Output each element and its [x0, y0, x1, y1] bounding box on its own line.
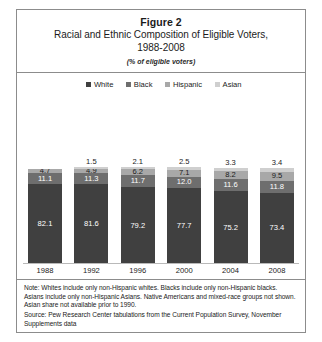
x-axis-label-2000: 2000	[167, 264, 201, 279]
bar-column-1996: 2.1 6.2 11.7 79.2	[121, 91, 155, 264]
legend-item-hispanic: Hispanic	[165, 80, 202, 89]
bar-segment-black-1992[interactable]: 11.3	[74, 173, 108, 184]
plot-panel: White Black Hispanic Asian 4.7 1	[17, 73, 305, 280]
x-axis-label-1988: 1988	[28, 264, 62, 279]
bar-segment-black-2008[interactable]: 11.8	[260, 181, 294, 193]
bar-stack-1996[interactable]: 6.2 11.7 79.2	[121, 167, 155, 264]
legend-swatch-hispanic-icon	[165, 82, 170, 87]
asian-value-label-1992: 1.5	[86, 157, 97, 167]
asian-value-label-2000: 2.5	[179, 157, 190, 167]
bar-segment-black-2000[interactable]: 12.0	[167, 177, 201, 189]
x-axis-label-2004: 2004	[214, 264, 248, 279]
legend-swatch-white-icon	[86, 82, 91, 87]
bar-segment-white-2004[interactable]: 75.2	[214, 191, 248, 265]
bar-column-1988: 4.7 11.1 82.1	[28, 91, 62, 264]
asian-value-label-2008: 3.4	[272, 158, 283, 168]
bar-stack-1992[interactable]: 4.9 11.3 81.6	[74, 167, 108, 264]
bar-column-2008: 3.4 9.5 11.8 73.4	[260, 91, 294, 264]
plot-area: 4.7 11.1 82.1 1.5 4.9 11.3 81.6 2.1	[23, 91, 299, 264]
figure-title-line1: Racial and Ethnic Composition of Eligibl…	[25, 29, 297, 42]
bar-segment-hispanic-2004[interactable]: 8.2	[214, 171, 248, 179]
x-axis-line	[23, 263, 299, 264]
bar-segment-hispanic-2008[interactable]: 9.5	[260, 172, 294, 181]
asian-value-label-1996: 2.1	[133, 157, 144, 167]
figure-subtitle: (% of eligible voters)	[25, 56, 297, 67]
bar-segment-white-2008[interactable]: 73.4	[260, 193, 294, 265]
figure-note: Note: Whites include only non-Hispanic w…	[24, 284, 298, 309]
figure-frame: Figure 2 Racial and Ethnic Composition o…	[16, 9, 306, 333]
bar-segment-white-1992[interactable]: 81.6	[74, 184, 108, 264]
legend-label-asian: Asian	[223, 80, 242, 89]
notes-block: Note: Whites include only non-Hispanic w…	[17, 280, 305, 332]
x-axis-label-2008: 2008	[260, 264, 294, 279]
bar-segment-white-1996[interactable]: 79.2	[121, 187, 155, 265]
legend-item-asian: Asian	[215, 80, 242, 89]
bar-segment-black-1996[interactable]: 11.7	[121, 175, 155, 186]
bar-stack-2000[interactable]: 7.1 12.0 77.7	[167, 167, 201, 264]
legend-item-black: Black	[126, 80, 152, 89]
bar-stack-2008[interactable]: 9.5 11.8 73.4	[260, 168, 294, 264]
bar-segment-white-1988[interactable]: 82.1	[28, 184, 62, 264]
legend-label-white: White	[94, 80, 113, 89]
bar-stack-1988[interactable]: 4.7 11.1 82.1	[28, 169, 62, 265]
bar-column-2000: 2.5 7.1 12.0 77.7	[167, 91, 201, 264]
legend-label-hispanic: Hispanic	[173, 80, 202, 89]
x-axis-label-1996: 1996	[121, 264, 155, 279]
legend-label-black: Black	[134, 80, 153, 89]
x-axis-labels: 1988 1992 1996 2000 2004 2008	[23, 264, 299, 279]
bar-segment-hispanic-2000[interactable]: 7.1	[167, 170, 201, 177]
chart-legend: White Black Hispanic Asian	[23, 78, 299, 91]
bar-segment-black-1988[interactable]: 11.1	[28, 173, 62, 184]
figure-title-line2: 1988-2008	[25, 42, 297, 55]
legend-swatch-black-icon	[126, 82, 131, 87]
x-axis-label-1992: 1992	[74, 264, 108, 279]
bar-stack-2004[interactable]: 8.2 11.6 75.2	[214, 168, 248, 264]
bar-segment-black-2004[interactable]: 11.6	[214, 179, 248, 190]
asian-value-label-2004: 3.3	[225, 158, 236, 168]
bar-column-1992: 1.5 4.9 11.3 81.6	[74, 91, 108, 264]
bar-segment-white-2000[interactable]: 77.7	[167, 188, 201, 264]
figure-number: Figure 2	[25, 16, 297, 29]
figure-source: Source: Pew Research Center tabulations …	[24, 311, 298, 328]
legend-item-white: White	[86, 80, 113, 89]
figure-title-block: Figure 2 Racial and Ethnic Composition o…	[17, 10, 305, 73]
bar-column-2004: 3.3 8.2 11.6 75.2	[214, 91, 248, 264]
legend-swatch-asian-icon	[215, 82, 220, 87]
